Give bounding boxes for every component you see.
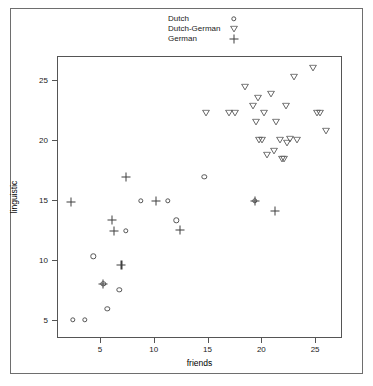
data-point-german	[271, 206, 280, 215]
data-point-dutch	[165, 198, 170, 203]
data-point-german	[250, 197, 259, 206]
legend-item-label: Dutch	[168, 14, 189, 23]
legend-item: Dutch	[168, 14, 246, 24]
plus-icon	[230, 35, 239, 44]
data-point-dutch-german	[258, 136, 266, 143]
legend-item: German	[168, 34, 246, 44]
data-point-dutch-german	[267, 91, 275, 98]
y-axis-tick-label: 10	[39, 256, 48, 265]
y-axis-tick-label: 15	[39, 196, 48, 205]
data-point-dutch-german	[254, 94, 262, 101]
data-point-dutch	[202, 174, 207, 179]
data-point-dutch-german	[282, 103, 290, 110]
data-point-dutch	[70, 317, 75, 322]
x-axis-tick	[154, 338, 155, 343]
data-point-dutch	[123, 228, 128, 233]
scatter-plot-figure: linguistic friends 510152025510152025 Du…	[0, 0, 373, 386]
data-point-dutch	[91, 253, 96, 258]
data-point-dutch-german	[290, 74, 298, 81]
data-point-dutch-german	[293, 136, 301, 143]
legend: DutchDutch-GermanGerman	[168, 14, 246, 44]
data-point-german	[66, 198, 75, 207]
data-point-dutch-german	[241, 84, 249, 91]
data-point-dutch	[105, 306, 110, 311]
data-point-dutch-german	[272, 118, 280, 125]
x-axis-tick-label: 15	[203, 345, 212, 354]
data-point-dutch	[117, 287, 122, 292]
data-point-dutch	[138, 198, 143, 203]
data-point-german	[109, 227, 118, 236]
triangle-down-open-icon	[230, 26, 238, 33]
y-axis-tick-label: 5	[44, 316, 48, 325]
data-point-german	[121, 173, 130, 182]
data-point-dutch-german	[322, 128, 330, 135]
legend-item-label: Dutch-German	[168, 24, 220, 33]
x-axis-label: friends	[57, 358, 342, 368]
data-point-dutch-german	[260, 110, 268, 117]
x-axis-tick-label: 25	[311, 345, 320, 354]
data-point-german	[117, 260, 126, 269]
data-point-dutch-german	[231, 110, 239, 117]
data-point-dutch-german	[202, 110, 210, 117]
plot-panel	[57, 56, 342, 338]
legend-item-label: German	[168, 34, 197, 43]
data-point-german	[107, 216, 116, 225]
x-axis-tick	[315, 338, 316, 343]
x-axis-tick-label: 10	[149, 345, 158, 354]
data-point-dutch	[174, 217, 179, 222]
x-axis-tick-label: 20	[257, 345, 266, 354]
data-point-dutch	[82, 317, 87, 322]
data-point-dutch-german	[280, 156, 288, 163]
data-point-dutch-german	[309, 64, 317, 71]
data-point-dutch-german	[270, 147, 278, 154]
data-point-dutch-german	[316, 110, 324, 117]
x-axis-tick	[261, 338, 262, 343]
y-axis-tick-label: 20	[39, 136, 48, 145]
data-point-layer	[58, 57, 341, 337]
legend-item: Dutch-German	[168, 24, 246, 34]
y-axis-label: linguistic	[9, 181, 19, 214]
x-axis-tick	[208, 338, 209, 343]
data-point-dutch-german	[252, 118, 260, 125]
data-point-german	[99, 279, 108, 288]
circle-open-icon	[231, 16, 236, 21]
x-axis-tick	[100, 338, 101, 343]
y-axis-tick-label: 25	[39, 76, 48, 85]
data-point-dutch-german	[249, 103, 257, 110]
data-point-german	[175, 225, 184, 234]
x-axis-tick-label: 5	[98, 345, 102, 354]
data-point-german	[151, 197, 160, 206]
